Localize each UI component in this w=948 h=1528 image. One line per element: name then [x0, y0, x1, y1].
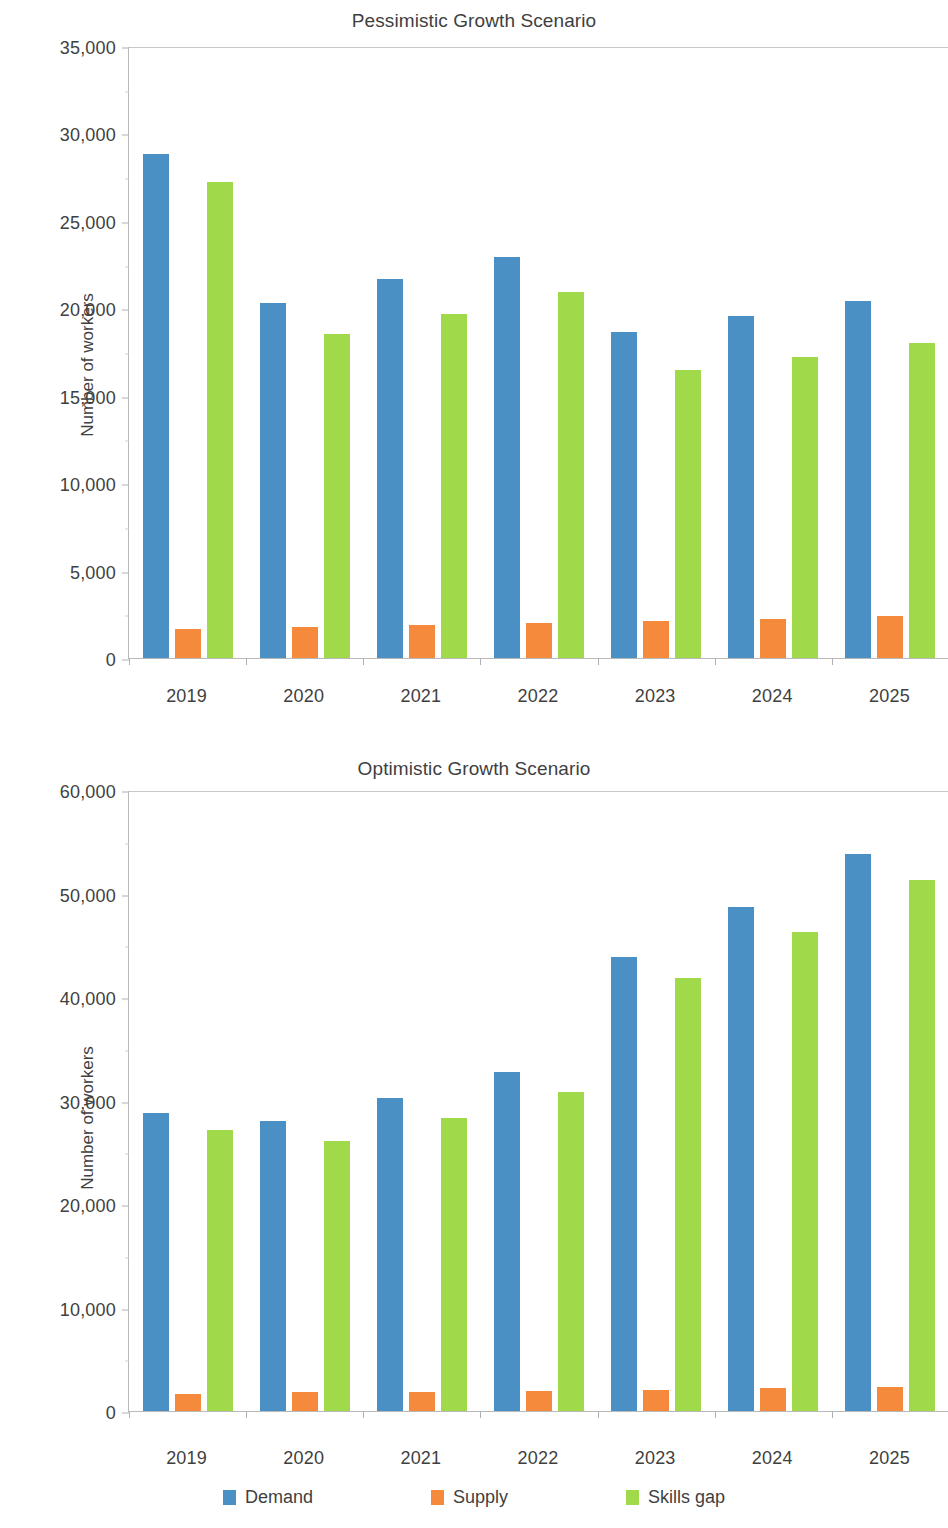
bar-supply-2021 — [409, 625, 435, 658]
legend-item-skills-gap[interactable]: Skills gap — [626, 1487, 725, 1508]
chart-panel-optimistic: Optimistic Growth Scenario Number of wor… — [0, 748, 948, 1468]
bar-supply-2024 — [760, 619, 786, 658]
x-axis-tick-mark — [598, 658, 599, 665]
y-axis-tick-mark — [122, 895, 129, 896]
y-axis-minor-tick-mark — [125, 1257, 129, 1258]
y-axis-tick-label: 30,000 — [60, 125, 129, 146]
y-axis-tick-label: 25,000 — [60, 212, 129, 233]
bar-demand-2024 — [728, 907, 754, 1411]
y-axis-tick-mark — [122, 792, 129, 793]
plot-area-optimistic: 010,00020,00030,00040,00050,00060,000 — [128, 791, 948, 1412]
y-axis-tick-label: 20,000 — [60, 1196, 129, 1217]
legend-label: Demand — [245, 1487, 313, 1508]
x-axis-tick-label: 2021 — [400, 1448, 441, 1469]
y-axis-minor-tick-mark — [125, 1050, 129, 1051]
bar-demand-2023 — [611, 957, 637, 1411]
bar-skills-gap-2020 — [324, 1141, 350, 1411]
bar-supply-2021 — [409, 1392, 435, 1411]
bar-supply-2019 — [175, 629, 201, 658]
bar-skills-gap-2025 — [909, 343, 935, 658]
x-axis-tick-mark — [832, 658, 833, 665]
x-axis-tick-label: 2023 — [635, 1448, 676, 1469]
y-axis-minor-tick-mark — [125, 616, 129, 617]
bar-supply-2025 — [877, 616, 903, 658]
y-axis-tick-mark — [122, 222, 129, 223]
y-axis-tick-mark — [122, 1102, 129, 1103]
y-axis-tick-label: 20,000 — [60, 300, 129, 321]
bar-demand-2019 — [143, 154, 169, 658]
plot-area-pessimistic: 05,00010,00015,00020,00025,00030,00035,0… — [128, 47, 948, 659]
bar-supply-2023 — [643, 1390, 669, 1411]
legend-item-supply[interactable]: Supply — [431, 1487, 508, 1508]
x-axis-tick-label: 2024 — [752, 686, 793, 707]
chart-title-pessimistic: Pessimistic Growth Scenario — [0, 10, 948, 32]
y-axis-tick-mark — [122, 1309, 129, 1310]
chart-legend: DemandSupplySkills gap — [0, 1487, 948, 1508]
bar-supply-2022 — [526, 623, 552, 658]
legend-swatch-icon — [431, 1490, 444, 1505]
bar-demand-2025 — [845, 854, 871, 1411]
bar-skills-gap-2022 — [558, 292, 584, 658]
y-axis-tick-label: 35,000 — [60, 38, 129, 59]
x-axis-tick-label: 2020 — [283, 686, 324, 707]
x-axis-tick-label: 2025 — [869, 686, 910, 707]
bar-skills-gap-2023 — [675, 370, 701, 659]
bar-demand-2024 — [728, 316, 754, 658]
y-axis-tick-label: 10,000 — [60, 1299, 129, 1320]
y-axis-minor-tick-mark — [125, 179, 129, 180]
y-axis-tick-mark — [122, 660, 129, 661]
y-axis-tick-label: 40,000 — [60, 989, 129, 1010]
y-axis-tick-label: 5,000 — [70, 562, 129, 583]
x-axis-tick-mark — [480, 658, 481, 665]
y-axis-tick-mark — [122, 48, 129, 49]
chart-title-optimistic: Optimistic Growth Scenario — [0, 758, 948, 780]
legend-item-demand[interactable]: Demand — [223, 1487, 313, 1508]
bar-skills-gap-2022 — [558, 1092, 584, 1411]
y-axis-tick-mark — [122, 999, 129, 1000]
y-axis-tick-label: 30,000 — [60, 1092, 129, 1113]
bar-demand-2023 — [611, 332, 637, 658]
x-axis-tick-mark — [715, 1411, 716, 1418]
y-axis-minor-tick-mark — [125, 843, 129, 844]
legend-label: Skills gap — [648, 1487, 725, 1508]
y-axis-tick-mark — [122, 572, 129, 573]
bar-skills-gap-2019 — [207, 182, 233, 658]
y-axis-tick-label: 60,000 — [60, 782, 129, 803]
bar-supply-2023 — [643, 621, 669, 658]
y-axis-tick-mark — [122, 1206, 129, 1207]
legend-swatch-icon — [626, 1490, 639, 1505]
bar-supply-2020 — [292, 1392, 318, 1411]
bar-supply-2019 — [175, 1394, 201, 1411]
bar-skills-gap-2024 — [792, 932, 818, 1411]
y-axis-minor-tick-mark — [125, 528, 129, 529]
chart-panel-pessimistic: Pessimistic Growth Scenario Number of wo… — [0, 0, 948, 730]
y-axis-minor-tick-mark — [125, 91, 129, 92]
bar-demand-2021 — [377, 1098, 403, 1411]
bar-supply-2022 — [526, 1391, 552, 1411]
bar-supply-2025 — [877, 1387, 903, 1411]
bar-demand-2019 — [143, 1113, 169, 1411]
x-axis-tick-mark — [480, 1411, 481, 1418]
bar-demand-2022 — [494, 257, 520, 658]
y-axis-minor-tick-mark — [125, 354, 129, 355]
y-axis-tick-mark — [122, 1413, 129, 1414]
y-axis-tick-mark — [122, 310, 129, 311]
x-axis-tick-label: 2023 — [635, 686, 676, 707]
x-axis-tick-label: 2019 — [166, 686, 207, 707]
x-axis-tick-label: 2020 — [283, 1448, 324, 1469]
y-axis-minor-tick-mark — [125, 947, 129, 948]
x-axis-tick-mark — [363, 658, 364, 665]
y-axis-minor-tick-mark — [125, 1154, 129, 1155]
y-axis-tick-label: 15,000 — [60, 387, 129, 408]
bar-skills-gap-2025 — [909, 880, 935, 1411]
x-axis-tick-mark — [246, 658, 247, 665]
bar-supply-2024 — [760, 1388, 786, 1411]
bar-demand-2020 — [260, 303, 286, 658]
x-axis-tick-label: 2024 — [752, 1448, 793, 1469]
x-axis-tick-mark — [832, 1411, 833, 1418]
x-axis-tick-label: 2021 — [400, 686, 441, 707]
y-axis-tick-mark — [122, 397, 129, 398]
y-axis-minor-tick-mark — [125, 1361, 129, 1362]
y-axis-tick-mark — [122, 135, 129, 136]
x-axis-tick-mark — [715, 658, 716, 665]
